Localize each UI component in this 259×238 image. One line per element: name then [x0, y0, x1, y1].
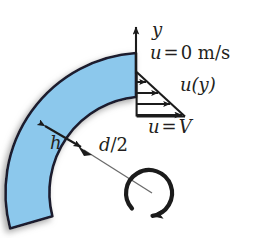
label-u-equals-v: u=V [148, 118, 192, 136]
linear-velocity-profile [137, 72, 185, 117]
label-d2-numerator: d [99, 134, 111, 155]
label-uV-value: V [179, 116, 192, 137]
label-gap-h: h [50, 134, 62, 152]
figure-canvas [0, 0, 259, 238]
label-u-equals-zero: u=0 m/s [150, 44, 230, 62]
rotation-direction-arrow [126, 170, 172, 216]
label-u0-value: 0 m/s [181, 42, 231, 63]
label-u0-symbol: u [150, 42, 162, 63]
label-uV-equals: = [160, 116, 179, 137]
label-radius-d-over-2: d/2 [99, 136, 128, 154]
label-u0-equals: = [162, 42, 181, 63]
axis-label-y: y [152, 21, 162, 39]
label-uV-symbol: u [148, 116, 160, 137]
label-uy-symbol: u [180, 74, 192, 95]
label-d2-denominator: 2 [117, 134, 128, 155]
label-uy-argument: (y) [192, 74, 216, 95]
label-u-of-y: u(y) [180, 76, 216, 94]
velocity-profile-figure: y u=0 m/s u(y) u=V h d/2 [0, 0, 259, 238]
